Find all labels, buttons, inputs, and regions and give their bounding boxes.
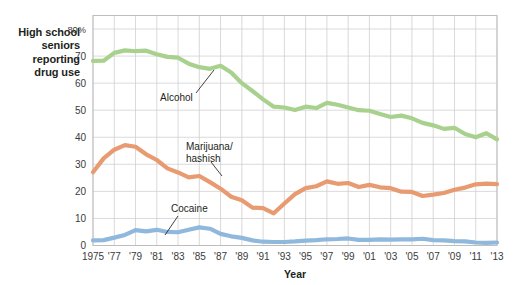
x-axis-tick-labels: 1975'77'79'81'83'85'87'89'91'93'95'97'99…: [82, 251, 504, 262]
x-tick-label-2009: '09: [448, 251, 461, 262]
x-tick-label-2001: '01: [363, 251, 376, 262]
y-tick-label-0: 0: [80, 240, 86, 251]
y-tick-label-20: 20: [75, 186, 87, 197]
x-tick-label-1979: '79: [129, 251, 142, 262]
x-tick-label-1977: '77: [108, 251, 121, 262]
annotation-alcohol: Alcohol: [160, 70, 214, 103]
x-axis-title: Year: [284, 268, 306, 280]
annotation-text-line: hashish: [186, 153, 220, 164]
chart-canvas: 01020304050607080% 1975'77'79'81'83'85'8…: [0, 0, 517, 285]
x-tick-label-1999: '99: [342, 251, 355, 262]
plot-area-frame: [93, 16, 497, 246]
x-tick-label-2003: '03: [384, 251, 397, 262]
series-line-alcohol: [93, 50, 497, 139]
annotation-text-line: Alcohol: [160, 92, 193, 103]
y-tick-label-40: 40: [75, 132, 87, 143]
x-tick-label-1991: '91: [257, 251, 270, 262]
x-tick-label-2005: '05: [405, 251, 418, 262]
series-line-cocaine: [93, 227, 497, 242]
series-line-marijuana-hashish: [93, 145, 497, 213]
x-tick-label-1997: '97: [320, 251, 333, 262]
x-tick-label-1985: '85: [193, 251, 206, 262]
annotation-marijuana: Marijuana/hashish: [186, 141, 233, 176]
y-tick-label-60: 60: [75, 78, 87, 89]
series-annotations: AlcoholMarijuana/hashishCocaine: [160, 70, 233, 235]
x-tick-label-2007: '07: [427, 251, 440, 262]
x-tick-label-1987: '87: [214, 251, 227, 262]
x-tick-label-1993: '93: [278, 251, 291, 262]
x-tick-label-1989: '89: [235, 251, 248, 262]
horizontal-gridlines: [93, 29, 497, 245]
x-tick-label-2011: '11: [470, 251, 483, 262]
annotation-text-line: Marijuana/: [186, 141, 233, 152]
y-axis-tick-labels: 01020304050607080%: [67, 25, 86, 251]
annotation-text-line: Cocaine: [171, 203, 208, 214]
x-tick-label-2013: '13: [490, 251, 503, 262]
y-tick-label-50: 50: [75, 105, 87, 116]
annotation-leader-line: [196, 70, 214, 93]
x-tick-label-1983: '83: [172, 251, 185, 262]
y-tick-label-10: 10: [75, 213, 87, 224]
x-tick-label-1975: 1975: [82, 251, 105, 262]
y-tick-label-30: 30: [75, 159, 87, 170]
x-tick-label-1981: '81: [150, 251, 163, 262]
y-tick-label-80: 80%: [67, 25, 86, 35]
data-series-group: [93, 50, 497, 242]
drug-use-line-chart-figure: High school seniors reporting drug use 0…: [0, 0, 517, 285]
vertical-gridlines: [93, 16, 497, 246]
y-tick-label-70: 70: [75, 51, 87, 62]
x-tick-label-1995: '95: [299, 251, 312, 262]
